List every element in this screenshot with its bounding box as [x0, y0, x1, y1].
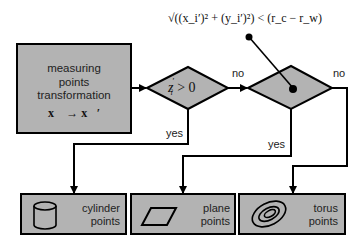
- cond-rest: > 0: [174, 80, 196, 95]
- radius-condition-formula: √((x_i′)² + (y_i′)²) < (r_c − r_w): [168, 11, 338, 26]
- formula-pointer-start-dot: [246, 34, 253, 41]
- plane-points-label: plane points: [170, 202, 230, 228]
- decision2-no-label: no: [333, 67, 345, 80]
- cylinder-label-line-2: points: [60, 215, 120, 228]
- transformation-line-1: measuring: [17, 62, 131, 76]
- decision1-condition: z′i > 0: [168, 80, 196, 98]
- torus-label-line-1: torus: [278, 202, 338, 215]
- transformation-box-label: measuring points transformation: [17, 62, 131, 103]
- decision1-yes-label: yes: [166, 127, 183, 140]
- cond-sub: i: [170, 88, 172, 97]
- plane-label-line-1: plane: [170, 202, 230, 215]
- cylinder-points-label: cylinder points: [60, 202, 120, 228]
- decision1-no-label: no: [232, 67, 244, 80]
- edge-decision2-yes: [183, 109, 291, 193]
- decision2-yes-label: yes: [268, 138, 285, 151]
- transformation-formula: x⃗ → x⃗′: [17, 107, 131, 120]
- torus-label-line-2: points: [278, 215, 338, 228]
- plane-label-line-2: points: [170, 215, 230, 228]
- transformation-line-3: transformation: [17, 89, 131, 103]
- torus-points-label: torus points: [278, 202, 338, 228]
- cylinder-label-line-1: cylinder: [60, 202, 120, 215]
- transformation-line-2: points: [17, 76, 131, 90]
- formula-pointer-end-dot: [289, 85, 297, 93]
